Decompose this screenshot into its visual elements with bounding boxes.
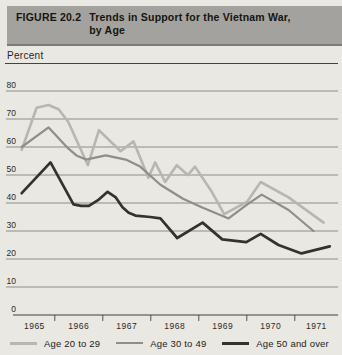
x-year-label-1968: 1968	[164, 321, 185, 331]
x-year-label-1967: 1967	[116, 321, 137, 331]
y-tick-label-60: 60	[7, 136, 17, 146]
legend-swatch-age-20-29	[10, 342, 37, 345]
y-tick-label-10: 10	[7, 276, 17, 286]
legend-item-age-20-29: Age 20 to 29	[10, 338, 100, 349]
legend-label-age-50-over: Age 50 and over	[256, 338, 329, 349]
legend-label-age-20-29: Age 20 to 29	[44, 338, 100, 349]
x-year-label-1970: 1970	[260, 321, 281, 331]
x-year-label-1965: 1965	[24, 321, 45, 331]
legend-item-age-50-over: Age 50 and over	[222, 338, 329, 349]
y-tick-label-30: 30	[7, 220, 17, 230]
x-year-label-1966: 1966	[68, 321, 89, 331]
legend-item-age-30-49: Age 30 to 49	[116, 338, 206, 349]
legend-swatch-age-30-49	[116, 342, 143, 344]
y-tick-label-50: 50	[7, 164, 17, 174]
x-year-label-1971: 1971	[306, 321, 327, 331]
y-tick-label-80: 80	[7, 80, 17, 90]
x-year-label-1969: 1969	[212, 321, 233, 331]
y-tick-label-40: 40	[7, 192, 17, 202]
chart-legend: Age 20 to 29 Age 30 to 49 Age 50 and ove…	[0, 334, 341, 352]
y-tick-label-0: 0	[11, 304, 16, 314]
legend-label-age-30-49: Age 30 to 49	[150, 338, 206, 349]
y-tick-label-20: 20	[7, 248, 17, 258]
legend-swatch-age-50-over	[222, 342, 249, 345]
y-tick-label-70: 70	[7, 108, 17, 118]
